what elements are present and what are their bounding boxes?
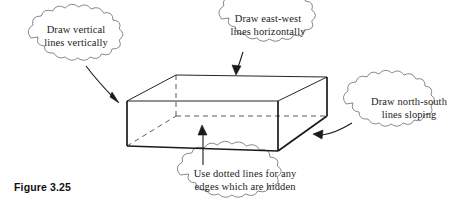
cuboid: [127, 75, 327, 151]
leader-draw-east-west-lines: [232, 52, 243, 75]
hidden-edge-bottom-left-slope: [127, 116, 176, 146]
edge-top-left-slope: [127, 75, 176, 101]
cuboid-top-face: [127, 75, 327, 101]
edge-top-back: [176, 75, 327, 77]
cuboid-hidden-edges: [127, 75, 327, 146]
leader-draw-vertical-lines: [86, 66, 119, 103]
callout-bubble-draw-east-west-lines: [219, 0, 316, 41]
callout-bubble-draw-north-south-lines: [343, 70, 434, 126]
cuboid-visible-outline: [127, 77, 327, 151]
figure-canvas: Draw vertical lines vertically Draw east…: [0, 0, 473, 221]
callout-bubble-draw-vertical-lines: [28, 4, 123, 60]
figure-caption: Figure 3.25: [14, 181, 71, 193]
leader-draw-north-south-lines: [313, 123, 352, 139]
edge-top-right-slope: [278, 77, 327, 101]
